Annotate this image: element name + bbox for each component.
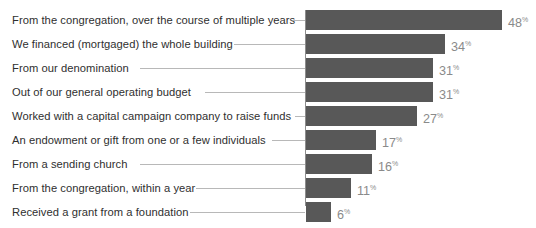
value-label: 48% bbox=[508, 10, 528, 30]
chart-row: An endowment or gift from one or a few i… bbox=[0, 130, 536, 150]
value-label: 27% bbox=[423, 106, 443, 126]
category-label: Out of our general operating budget bbox=[12, 82, 191, 102]
value-label: 17% bbox=[382, 130, 402, 150]
percent-sign: % bbox=[465, 40, 471, 47]
category-label: From the congregation, over the course o… bbox=[12, 10, 295, 30]
value-label: 16% bbox=[378, 154, 398, 174]
value-label: 31% bbox=[439, 58, 459, 78]
bar bbox=[306, 34, 445, 54]
leader-line bbox=[293, 20, 305, 21]
leader-line bbox=[205, 92, 305, 93]
bar bbox=[306, 202, 331, 222]
leader-line bbox=[234, 44, 305, 45]
value-label: 11% bbox=[357, 178, 376, 198]
leader-line bbox=[295, 116, 305, 117]
category-label: From the congregation, within a year bbox=[12, 178, 195, 198]
chart-row: From a sending church 16% bbox=[0, 154, 536, 174]
percent-sign: % bbox=[453, 64, 459, 71]
chart-row: We financed (mortgaged) the whole buildi… bbox=[0, 34, 536, 54]
value-label: 31% bbox=[439, 82, 459, 102]
leader-line bbox=[140, 164, 305, 165]
category-label: Received a grant from a foundation bbox=[12, 202, 188, 222]
chart-row: Received a grant from a foundation 6% bbox=[0, 202, 536, 222]
bar bbox=[306, 82, 433, 102]
bar bbox=[306, 106, 417, 126]
plot-area: From the congregation, over the course o… bbox=[0, 0, 536, 228]
leader-line bbox=[272, 140, 305, 141]
percent-sign: % bbox=[370, 184, 376, 191]
horizontal-bar-chart: From the congregation, over the course o… bbox=[0, 0, 536, 228]
category-label: From our denomination bbox=[12, 58, 129, 78]
bar bbox=[306, 10, 502, 30]
bar bbox=[306, 130, 376, 150]
chart-row: From our denomination 31% bbox=[0, 58, 536, 78]
percent-sign: % bbox=[396, 136, 402, 143]
percent-sign: % bbox=[437, 112, 443, 119]
category-label: We financed (mortgaged) the whole buildi… bbox=[12, 34, 233, 54]
category-label: Worked with a capital campaign company t… bbox=[12, 106, 291, 126]
leader-line bbox=[196, 188, 305, 189]
chart-row: From the congregation, over the course o… bbox=[0, 10, 536, 30]
percent-sign: % bbox=[522, 16, 528, 23]
chart-row: Out of our general operating budget 31% bbox=[0, 82, 536, 102]
bar bbox=[306, 58, 433, 78]
value-label: 34% bbox=[451, 34, 471, 54]
value-label: 6% bbox=[337, 202, 350, 222]
percent-sign: % bbox=[344, 208, 350, 215]
chart-row: Worked with a capital campaign company t… bbox=[0, 106, 536, 126]
percent-sign: % bbox=[453, 88, 459, 95]
leader-line bbox=[190, 212, 305, 213]
leader-line bbox=[140, 68, 305, 69]
bar bbox=[306, 154, 372, 174]
percent-sign: % bbox=[392, 160, 398, 167]
category-label: From a sending church bbox=[12, 154, 127, 174]
category-label: An endowment or gift from one or a few i… bbox=[12, 130, 266, 150]
bar bbox=[306, 178, 351, 198]
chart-row: From the congregation, within a year 11% bbox=[0, 178, 536, 198]
